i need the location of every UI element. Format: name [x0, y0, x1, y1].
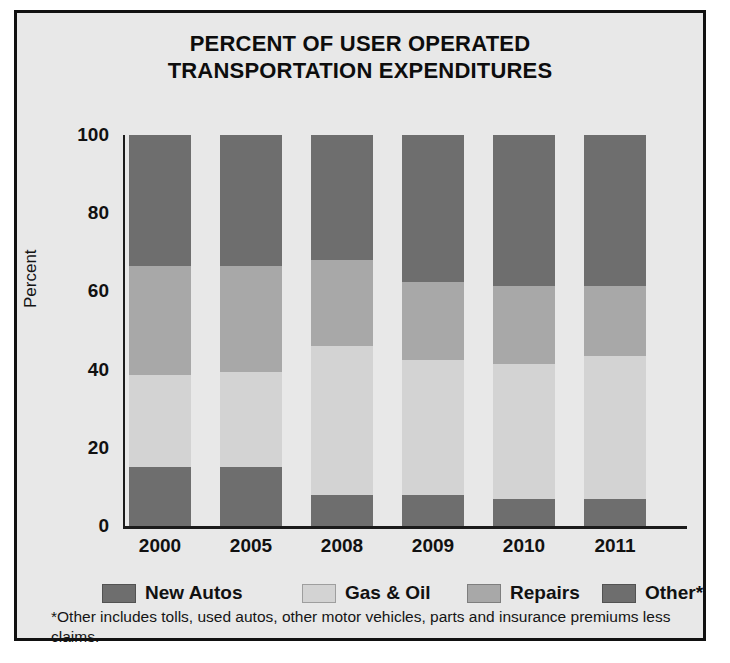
- legend-item[interactable]: New Autos: [102, 581, 242, 605]
- bar-segment[interactable]: [311, 135, 373, 260]
- bar-segment[interactable]: [311, 495, 373, 526]
- bar-segment[interactable]: [493, 364, 555, 499]
- bar-segment[interactable]: [493, 499, 555, 526]
- bar-segment[interactable]: [493, 135, 555, 286]
- bar-stack[interactable]: [493, 135, 555, 526]
- legend-label: New Autos: [145, 582, 242, 604]
- legend-swatch-icon: [602, 584, 636, 603]
- x-axis-tick-label: 2008: [311, 535, 373, 557]
- plot-area: Percent 020406080100 2000200520082009201…: [117, 133, 687, 533]
- x-axis-tick-label: 2009: [402, 535, 464, 557]
- legend-label: Other*: [645, 582, 703, 604]
- legend-item[interactable]: Other*: [602, 581, 703, 605]
- legend-swatch-icon: [467, 584, 501, 603]
- y-axis-tick-label: 0: [98, 515, 109, 537]
- chart-footnote: *Other includes tolls, used autos, other…: [51, 607, 681, 647]
- bar-segment[interactable]: [584, 499, 646, 526]
- y-axis-tick-label: 20: [88, 437, 109, 459]
- bar-stack[interactable]: [402, 135, 464, 526]
- legend-item[interactable]: Repairs: [467, 581, 580, 605]
- chart-legend: New AutosGas & OilRepairsOther*: [47, 581, 687, 607]
- y-axis-ticks: 020406080100: [65, 133, 115, 529]
- legend-label: Repairs: [510, 582, 580, 604]
- bar-segment[interactable]: [220, 266, 282, 372]
- y-axis-title: Percent: [21, 249, 41, 308]
- legend-item[interactable]: Gas & Oil: [302, 581, 431, 605]
- bar-segment[interactable]: [402, 135, 464, 282]
- bar-segment[interactable]: [220, 372, 282, 468]
- chart-title-line-2: TRANSPORTATION EXPENDITURES: [17, 58, 703, 85]
- y-axis-tick-label: 80: [88, 202, 109, 224]
- bar-segment[interactable]: [584, 135, 646, 286]
- bar-stack[interactable]: [129, 135, 191, 526]
- bar-segment[interactable]: [584, 286, 646, 356]
- y-axis-tick-label: 100: [77, 124, 109, 146]
- bar-segment[interactable]: [129, 135, 191, 266]
- bar-segment[interactable]: [402, 282, 464, 360]
- x-axis-tick-label: 2011: [584, 535, 646, 557]
- bar-segment[interactable]: [311, 346, 373, 495]
- legend-swatch-icon: [302, 584, 336, 603]
- bar-segment[interactable]: [220, 467, 282, 526]
- chart-title: PERCENT OF USER OPERATED TRANSPORTATION …: [17, 31, 703, 85]
- bar-segment[interactable]: [220, 135, 282, 266]
- bar-stack[interactable]: [220, 135, 282, 526]
- y-axis-tick-label: 60: [88, 280, 109, 302]
- legend-swatch-icon: [102, 584, 136, 603]
- x-axis-tick-label: 2005: [220, 535, 282, 557]
- chart-title-line-1: PERCENT OF USER OPERATED: [17, 31, 703, 58]
- bar-segment[interactable]: [584, 356, 646, 499]
- bar-segment[interactable]: [129, 375, 191, 467]
- x-axis-tick-label: 2000: [129, 535, 191, 557]
- legend-label: Gas & Oil: [345, 582, 431, 604]
- bar-stack[interactable]: [311, 135, 373, 526]
- x-axis-line: [123, 526, 687, 529]
- x-axis-tick-label: 2010: [493, 535, 555, 557]
- bar-group: 200020052008200920102011: [129, 135, 685, 526]
- bar-segment[interactable]: [493, 286, 555, 364]
- bar-segment[interactable]: [402, 495, 464, 526]
- bar-stack[interactable]: [584, 135, 646, 526]
- y-axis-tick-label: 40: [88, 359, 109, 381]
- chart-figure: PERCENT OF USER OPERATED TRANSPORTATION …: [14, 10, 706, 641]
- bar-segment[interactable]: [402, 360, 464, 495]
- bar-segment[interactable]: [311, 260, 373, 346]
- y-axis-line: [123, 135, 125, 528]
- bar-segment[interactable]: [129, 266, 191, 375]
- bar-segment[interactable]: [129, 467, 191, 526]
